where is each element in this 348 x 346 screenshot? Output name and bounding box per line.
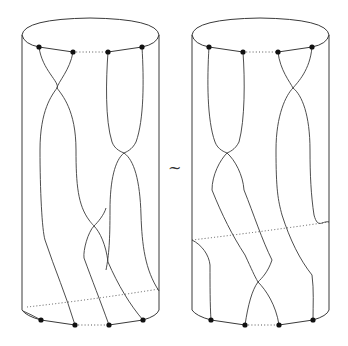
left-bottom-rim-right [109, 310, 159, 325]
right-back-seam [192, 222, 329, 240]
left-top-front-rim-right [108, 35, 159, 52]
left-top-back-rim [22, 18, 159, 35]
right-bottom-dot-1 [208, 317, 213, 322]
left-strand-e [84, 220, 109, 325]
left-top-dot-2 [70, 49, 75, 54]
right-bottom-dot-4 [310, 317, 315, 322]
left-lip [23, 311, 41, 320]
left-bottom-dot-4 [140, 317, 145, 322]
right-top-front-rim [192, 35, 243, 52]
right-bottom-dot-2 [242, 322, 247, 327]
left-cylinder [22, 18, 159, 328]
left-top-dot-4 [139, 44, 144, 49]
left-top-front-rim [22, 35, 73, 52]
right-strand-e [192, 240, 211, 320]
right-strand-b [293, 47, 329, 223]
equivalence-symbol: ~ [168, 158, 181, 177]
right-bottom-dot-3 [276, 322, 281, 327]
right-top-dot-2 [240, 49, 245, 54]
left-bottom-dot-1 [38, 317, 43, 322]
right-strand-c [208, 47, 258, 325]
left-back-seam [27, 289, 159, 307]
left-top-dot-1 [36, 44, 41, 49]
right-bottom-rim-right [279, 310, 329, 325]
left-bottom-dot-3 [106, 322, 111, 327]
right-top-dot-3 [275, 49, 280, 54]
right-bottom-rim [192, 310, 245, 325]
left-strand-c [106, 52, 124, 270]
left-strand-d [124, 47, 159, 291]
left-top-dot-3 [105, 49, 110, 54]
right-top-front-rim-right [278, 35, 329, 52]
right-cylinder [192, 18, 329, 328]
left-bottom-rim [22, 310, 75, 325]
left-strand-b [57, 52, 89, 220]
right-top-back-rim [192, 18, 329, 35]
right-top-dot-4 [309, 44, 314, 49]
right-strand-d [227, 52, 279, 325]
left-bottom-dot-2 [72, 322, 77, 327]
right-top-dot-1 [206, 44, 211, 49]
right-strand-a [276, 52, 313, 320]
